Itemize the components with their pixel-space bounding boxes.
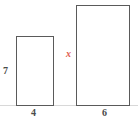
large-rectangle-shape [76,5,130,106]
large-rectangle-height-label: x [66,49,71,59]
small-rectangle-height-label: 7 [3,66,8,76]
small-rectangle-shape [16,36,54,106]
small-rectangle-width-label: 4 [31,108,36,118]
geometry-diagram: 7 4 x 6 [0,0,138,128]
large-rectangle-width-label: 6 [102,108,107,118]
